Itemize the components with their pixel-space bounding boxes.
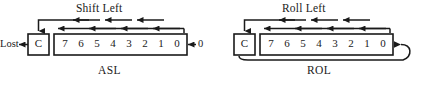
asl-bit-7: 7 (58, 37, 72, 49)
rol-diagram: Roll Left C 7 6 5 4 3 2 1 0 ROL (215, 0, 425, 85)
rol-operation-label: Roll Left (282, 2, 326, 14)
rol-bit-7: 7 (264, 37, 278, 49)
shift-rotate-figure: Shift Left Lost C 0 7 6 5 4 3 2 1 0 ASL (0, 0, 425, 85)
asl-name-label: ASL (98, 64, 121, 76)
asl-diagram: Shift Left Lost C 0 7 6 5 4 3 2 1 0 ASL (0, 0, 215, 85)
rol-bit-0: 0 (376, 37, 390, 49)
rol-bit-2: 2 (344, 37, 358, 49)
asl-bit-5: 5 (90, 37, 104, 49)
asl-bit-2: 2 (138, 37, 152, 49)
asl-bit-4: 4 (106, 37, 120, 49)
asl-fill-in-label: 0 (198, 38, 203, 49)
asl-bit-6: 6 (74, 37, 88, 49)
asl-lost-label: Lost (0, 38, 19, 49)
rol-name-label: ROL (307, 64, 331, 76)
asl-bit-3: 3 (122, 37, 136, 49)
rol-bit-4: 4 (312, 37, 326, 49)
asl-bit-0: 0 (170, 37, 184, 49)
asl-carry-in-path (39, 20, 90, 31)
rol-carry-in-path (245, 20, 296, 31)
rol-bit-1: 1 (360, 37, 374, 49)
rol-carry-label: C (234, 37, 255, 49)
rol-bit-3: 3 (328, 37, 342, 49)
asl-bit-1: 1 (154, 37, 168, 49)
asl-operation-label: Shift Left (76, 2, 122, 14)
asl-carry-label: C (28, 37, 49, 49)
rol-bit-6: 6 (280, 37, 294, 49)
rol-bit-5: 5 (296, 37, 310, 49)
